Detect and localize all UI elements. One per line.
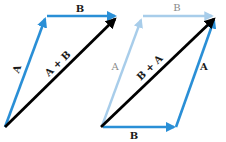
left-diagram: A B A + B (5, 3, 115, 127)
label-a: A (10, 63, 23, 75)
right-diagram: A B B A B + A (101, 2, 214, 141)
resultant-b-plus-a-arrow (101, 19, 214, 127)
label-b-plus-a: B + A (134, 52, 165, 82)
label-b: B (76, 3, 84, 14)
label-b: B (130, 130, 138, 141)
resultant-a-plus-b-arrow (5, 19, 115, 127)
label-a: A (199, 61, 208, 72)
label-b-faded: B (173, 2, 180, 13)
label-a-faded: A (110, 61, 119, 72)
vector-addition-figure: A B A + B A B B A B + A (0, 0, 226, 142)
vector-a-arrow (5, 19, 45, 127)
